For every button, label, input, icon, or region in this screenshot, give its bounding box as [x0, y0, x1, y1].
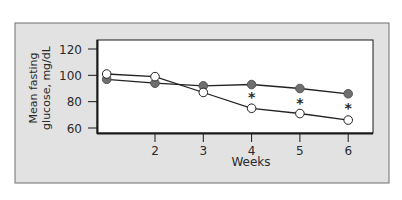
- x-tick-label: 5: [296, 144, 304, 158]
- filled-circle-marker: [296, 84, 305, 93]
- open-circle-marker: [344, 116, 353, 125]
- asterisk-marker: *: [248, 89, 256, 105]
- y-tick-label: 80: [67, 95, 82, 109]
- chart-figure: 6080100120 23456 *** Weeks Mean fasting …: [0, 0, 402, 200]
- filled-circle-marker: [344, 89, 353, 98]
- x-axis-label: Weeks: [231, 155, 270, 169]
- y-tick-label: 100: [59, 69, 82, 83]
- y-axis-label-line-2: glucose, mg/dL: [40, 45, 53, 130]
- x-tick-label: 6: [344, 144, 352, 158]
- open-circle-marker: [199, 88, 208, 97]
- y-axis-label: Mean fasting glucose, mg/dL: [27, 45, 53, 130]
- y-axis-label-line-1: Mean fasting: [27, 52, 40, 123]
- filled-circle-marker: [247, 80, 256, 89]
- plot-area: [97, 40, 373, 133]
- open-circle-marker: [102, 70, 111, 79]
- x-tick-label: 2: [151, 144, 159, 158]
- asterisk-marker: *: [345, 100, 353, 116]
- x-tick-label: 3: [199, 144, 207, 158]
- line-chart: 6080100120 23456 *** Weeks Mean fasting …: [0, 0, 402, 200]
- asterisk-marker: *: [296, 95, 304, 111]
- open-circle-marker: [151, 72, 160, 81]
- y-tick-label: 120: [59, 43, 82, 57]
- y-tick-label: 60: [67, 122, 82, 136]
